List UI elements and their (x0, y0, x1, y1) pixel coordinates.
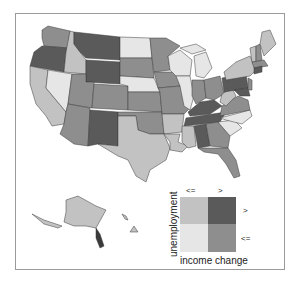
bivariate-legend: <= > > <= income change unemployment (0, 0, 300, 284)
legend-col-gt: > (218, 186, 223, 195)
legend-row-gt: > (243, 206, 248, 215)
legend-row-le: <= (241, 234, 251, 243)
legend-y-label: unemployment (168, 191, 179, 257)
legend-cell-unemp-le-income-le (180, 224, 208, 252)
legend-cell-unemp-gt-income-gt (208, 197, 236, 224)
legend-x-label: income change (180, 255, 248, 266)
legend-col-le: <= (186, 186, 196, 195)
legend-cell-unemp-gt-income-le (180, 197, 208, 224)
legend-cell-unemp-le-income-gt (208, 224, 236, 252)
